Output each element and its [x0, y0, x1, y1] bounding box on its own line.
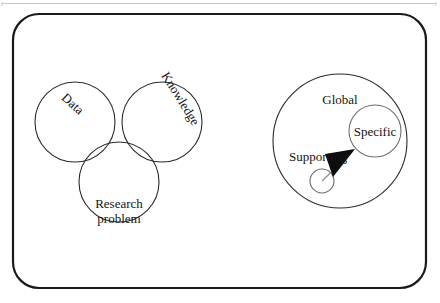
label-global: Global	[322, 92, 358, 107]
venn-label-data: Data	[59, 90, 87, 118]
right-diagram-group: Global Specific Supporting	[273, 74, 407, 208]
figure-canvas: Data Knowledge Research problem Global S…	[0, 0, 440, 303]
diagram-svg: Data Knowledge Research problem Global S…	[0, 0, 440, 303]
label-specific: Specific	[354, 124, 397, 139]
rounded-rectangle-frame	[13, 14, 426, 288]
venn-label-research-problem-line1: Research	[95, 196, 143, 211]
venn-circle-data	[35, 82, 115, 162]
venn-label-knowledge: Knowledge	[159, 69, 204, 128]
venn-label-research-problem-line2: problem	[97, 211, 140, 226]
label-supporting: Supporting	[289, 149, 347, 164]
venn-group: Data Knowledge Research problem	[20, 60, 220, 240]
